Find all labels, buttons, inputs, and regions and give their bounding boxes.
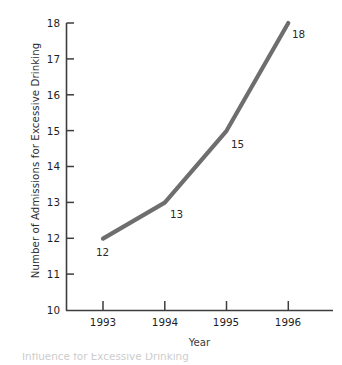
data-point-label: 12 [96,246,109,258]
y-tick-label: 12 [34,232,60,244]
line-chart: Number of Admissions for Excessive Drink… [0,0,342,365]
data-line-series-1 [103,23,288,239]
y-tick-label: 10 [34,304,60,316]
y-tick-label: 15 [34,125,60,137]
y-tick-label: 18 [34,17,60,29]
y-tick-label: 11 [34,268,60,280]
y-tick-label: 16 [34,89,60,101]
y-tick-marks [67,23,75,274]
y-tick-label: 17 [34,53,60,65]
x-tick-label: 1993 [83,316,123,328]
data-point-label: 13 [170,208,183,220]
x-tick-label: 1995 [206,316,246,328]
x-tick-marks [103,301,288,311]
x-axis-title: Year [66,337,333,348]
data-point-label: 15 [231,138,244,150]
figure-caption: Influence for Excessive Drinking [0,353,342,365]
x-tick-label: 1996 [268,316,308,328]
x-tick-label: 1994 [145,316,185,328]
data-point-label: 18 [292,28,305,40]
figure-caption-text: Influence for Excessive Drinking [22,353,189,362]
y-tick-label: 14 [34,160,60,172]
y-tick-label: 13 [34,196,60,208]
